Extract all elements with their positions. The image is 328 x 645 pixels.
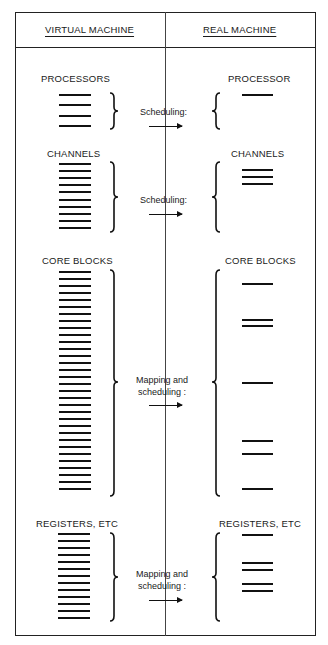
real-processor-label: PROCESSOR [228, 73, 291, 84]
real-channels-label: CHANNELS [231, 148, 284, 159]
line [59, 411, 91, 413]
line [58, 596, 90, 598]
line [58, 561, 90, 563]
line [59, 334, 91, 336]
line [242, 169, 273, 171]
line [59, 271, 91, 273]
operation-line-1: Mapping and [136, 568, 188, 580]
arrow-right-icon [149, 214, 182, 215]
line [242, 562, 273, 564]
line [59, 404, 91, 406]
line [59, 327, 91, 329]
right-curly-brace-icon [108, 92, 120, 130]
line [59, 341, 91, 343]
line [242, 583, 273, 585]
left-curly-brace-icon [210, 269, 222, 497]
line [59, 115, 91, 117]
channels-operation-label: Scheduling: [140, 194, 187, 206]
right-curly-brace-icon [108, 532, 120, 622]
line [59, 460, 91, 462]
line [59, 191, 91, 193]
line [59, 292, 91, 294]
virtual-machine-title: VIRTUAL MACHINE [45, 24, 134, 35]
line [58, 540, 90, 542]
line [58, 575, 90, 577]
line [59, 320, 91, 322]
line [59, 104, 91, 106]
line [242, 94, 273, 96]
line [59, 199, 91, 201]
line [59, 163, 91, 165]
virtual-processors-label: PROCESSORS [41, 73, 110, 84]
line [59, 177, 91, 179]
line [59, 481, 91, 483]
line [242, 325, 273, 327]
left-curly-brace-icon [210, 92, 222, 130]
line [59, 206, 91, 208]
line [58, 547, 90, 549]
line [58, 603, 90, 605]
operation-line-2: scheduling : [136, 386, 188, 398]
line [242, 534, 273, 536]
arrow-right-icon [149, 405, 182, 406]
line [59, 446, 91, 448]
line [59, 213, 91, 215]
line [59, 369, 91, 371]
line [242, 183, 273, 185]
line [59, 94, 91, 96]
line [58, 533, 90, 535]
line [58, 589, 90, 591]
line [59, 474, 91, 476]
real-registers-label: REGISTERS, ETC [219, 518, 301, 529]
operation-line-2: scheduling : [136, 580, 188, 592]
processors-operation-label: Scheduling: [140, 106, 187, 118]
line [59, 390, 91, 392]
right-curly-brace-icon [108, 269, 120, 497]
core-blocks-operation-label: Mapping and scheduling : [136, 374, 188, 398]
line [59, 467, 91, 469]
line [59, 397, 91, 399]
line [59, 313, 91, 315]
operation-line-1: Mapping and [136, 374, 188, 386]
line [242, 569, 273, 571]
line [242, 319, 273, 321]
line [59, 418, 91, 420]
line [59, 170, 91, 172]
arrow-right-icon [149, 126, 182, 127]
line [59, 453, 91, 455]
line [242, 590, 273, 592]
line [59, 362, 91, 364]
line [59, 299, 91, 301]
left-curly-brace-icon [210, 161, 222, 233]
line [59, 488, 91, 490]
line [242, 488, 273, 490]
line [59, 376, 91, 378]
line [59, 425, 91, 427]
real-core-blocks-label: CORE BLOCKS [225, 255, 296, 266]
line [242, 283, 273, 285]
virtual-channels-label: CHANNELS [47, 148, 100, 159]
line [58, 582, 90, 584]
real-machine-title: REAL MACHINE [203, 24, 276, 35]
left-curly-brace-icon [210, 532, 222, 622]
line [59, 184, 91, 186]
virtual-core-blocks-label: CORE BLOCKS [42, 255, 113, 266]
line [242, 453, 273, 455]
line [59, 355, 91, 357]
line [58, 617, 90, 619]
registers-operation-label: Mapping and scheduling : [136, 568, 188, 592]
line [59, 227, 91, 229]
line [59, 432, 91, 434]
line [59, 285, 91, 287]
line [59, 306, 91, 308]
line [59, 125, 91, 127]
virtual-registers-label: REGISTERS, ETC [36, 518, 118, 529]
line [59, 220, 91, 222]
line [242, 440, 273, 442]
line [242, 176, 273, 178]
line [242, 382, 273, 384]
line [59, 439, 91, 441]
line [59, 383, 91, 385]
line [58, 568, 90, 570]
line [58, 610, 90, 612]
